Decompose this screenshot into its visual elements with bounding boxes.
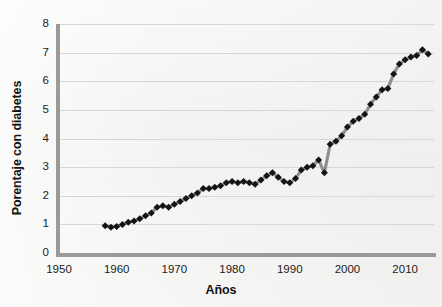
- data-point-1958: [102, 222, 109, 229]
- series-markers: [102, 46, 432, 230]
- data-point-1981: [234, 179, 241, 186]
- series-line-path: [105, 50, 428, 227]
- y-axis-title: Porentaje con diabetes: [10, 28, 26, 268]
- diabetes-prevalence-line-chart: 012345678 1950196019701980199020002010 P…: [0, 0, 442, 307]
- data-point-1983: [246, 179, 253, 186]
- series-layer: [0, 0, 442, 307]
- data-point-1980: [229, 178, 236, 185]
- x-axis-title: Años: [0, 283, 442, 297]
- data-point-1968: [159, 202, 166, 209]
- data-point-1959: [107, 224, 114, 231]
- series-diabetes: [0, 0, 442, 307]
- data-point-1977: [211, 184, 218, 191]
- data-point-1982: [240, 178, 247, 185]
- data-point-1976: [206, 185, 213, 192]
